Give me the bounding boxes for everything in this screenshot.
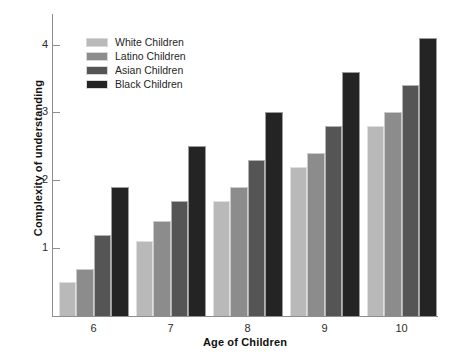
legend: White ChildrenLatino ChildrenAsian Child… [86,36,186,90]
y-tick-label: 4 [28,39,48,50]
x-tick-label: 7 [156,322,186,334]
legend-label: Black Children [115,79,183,90]
legend-swatch-icon [86,80,108,89]
bar [307,153,325,316]
bar [136,241,154,316]
legend-item: Latino Children [86,50,186,62]
bar [248,160,266,316]
bar [325,126,343,316]
bar [188,146,206,316]
x-tick-label: 8 [233,322,263,334]
x-tick-label: 9 [310,322,340,334]
x-tick-label: 6 [79,322,109,334]
bar-chart: Complexity of understanding Age of Child… [0,0,451,361]
bar [419,38,437,316]
y-tick-label: 2 [28,174,48,185]
legend-swatch-icon [86,66,108,75]
bar [111,187,129,316]
bar [402,85,420,316]
y-tick-label: 1 [28,242,48,253]
bar [367,126,385,316]
bar [213,201,231,316]
bar [342,72,360,316]
bar [290,167,308,316]
bar [171,201,189,316]
x-axis-line [52,316,438,317]
legend-item: Black Children [86,78,186,90]
x-axis-title: Age of Children [52,336,438,348]
legend-swatch-icon [86,38,108,47]
legend-label: Latino Children [115,51,186,62]
bar [59,282,77,316]
bar [230,187,248,316]
bar [384,112,402,316]
bar [94,235,112,316]
legend-label: Asian Children [115,65,183,76]
y-tick-label: 3 [28,106,48,117]
legend-item: Asian Children [86,64,186,76]
legend-swatch-icon [86,52,108,61]
bar [265,112,283,316]
bar [76,269,94,317]
legend-item: White Children [86,36,186,48]
bar [153,221,171,316]
legend-label: White Children [115,37,184,48]
x-tick-label: 10 [387,322,417,334]
